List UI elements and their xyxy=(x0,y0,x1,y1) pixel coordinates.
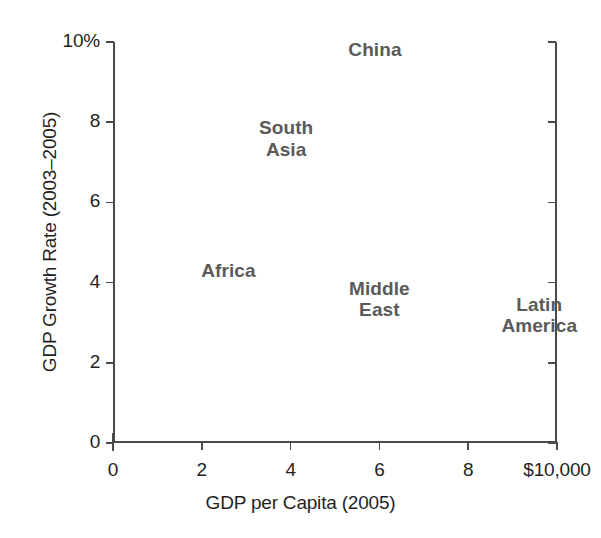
x-axis-tick xyxy=(379,442,381,450)
x-axis-tick-label: $10,000 xyxy=(523,459,590,481)
y-axis-tick xyxy=(106,202,114,204)
data-point-latin-america: Latin America xyxy=(501,293,577,336)
x-axis-tick xyxy=(201,442,203,450)
y-axis-tick-right xyxy=(548,442,556,444)
y-axis-tick-right xyxy=(548,41,556,43)
y-axis-title: GDP Growth Rate (2003–2005) xyxy=(39,42,61,442)
y-axis-tick xyxy=(106,282,114,284)
x-axis-bottom-line xyxy=(113,441,557,443)
y-axis-tick-right xyxy=(548,202,556,204)
data-point-africa: Africa xyxy=(201,260,255,281)
x-axis-tick-label: 4 xyxy=(285,459,295,481)
x-axis-tick-label: 0 xyxy=(108,459,118,481)
x-axis-tick xyxy=(290,442,292,450)
y-axis-tick-label: 8 xyxy=(90,110,100,132)
x-axis-tick-label: 2 xyxy=(197,459,207,481)
data-point-china: China xyxy=(348,39,401,60)
x-axis-tick xyxy=(467,442,469,450)
plot-area: ChinaSouth AsiaAfricaMiddle EastLatin Am… xyxy=(113,42,557,443)
y-axis-tick xyxy=(106,121,114,123)
data-point-south-asia: South Asia xyxy=(259,117,313,160)
y-axis-tick-label: 6 xyxy=(90,190,100,212)
y-axis-tick-label: 10% xyxy=(63,30,100,52)
y-axis-tick xyxy=(106,41,114,43)
y-axis-tick-label: 4 xyxy=(90,271,100,293)
x-axis-title: GDP per Capita (2005) xyxy=(0,492,601,514)
y-axis-tick-right xyxy=(548,121,556,123)
x-axis-tick xyxy=(112,433,114,451)
x-axis-tick xyxy=(556,442,558,450)
x-axis-tick-label: 6 xyxy=(374,459,384,481)
y-axis-tick-label: 2 xyxy=(90,351,100,373)
y-axis-tick-label: 0 xyxy=(90,431,100,453)
y-axis-tick-right xyxy=(548,362,556,364)
scatter-chart: GDP Growth Rate (2003–2005) GDP per Capi… xyxy=(0,0,601,538)
x-axis-tick-label: 8 xyxy=(463,459,473,481)
data-point-middle-east: Middle East xyxy=(349,277,410,320)
y-axis-tick-right xyxy=(548,282,556,284)
y-axis-tick xyxy=(106,362,114,364)
y-axis-right-line xyxy=(555,42,557,443)
y-axis-left-line xyxy=(113,42,115,443)
